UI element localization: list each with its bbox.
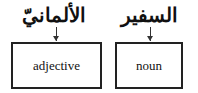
arabic-word-noun: السفير [122, 5, 178, 25]
label-adjective: adjective [33, 58, 80, 74]
label-box-noun: noun [115, 42, 183, 89]
arrow-down-icon [150, 27, 151, 41]
arabic-word-adjective: الألمانيّ [26, 5, 86, 25]
arrow-down-icon [56, 27, 57, 41]
label-noun: noun [136, 58, 162, 74]
label-box-adjective: adjective [11, 42, 102, 89]
